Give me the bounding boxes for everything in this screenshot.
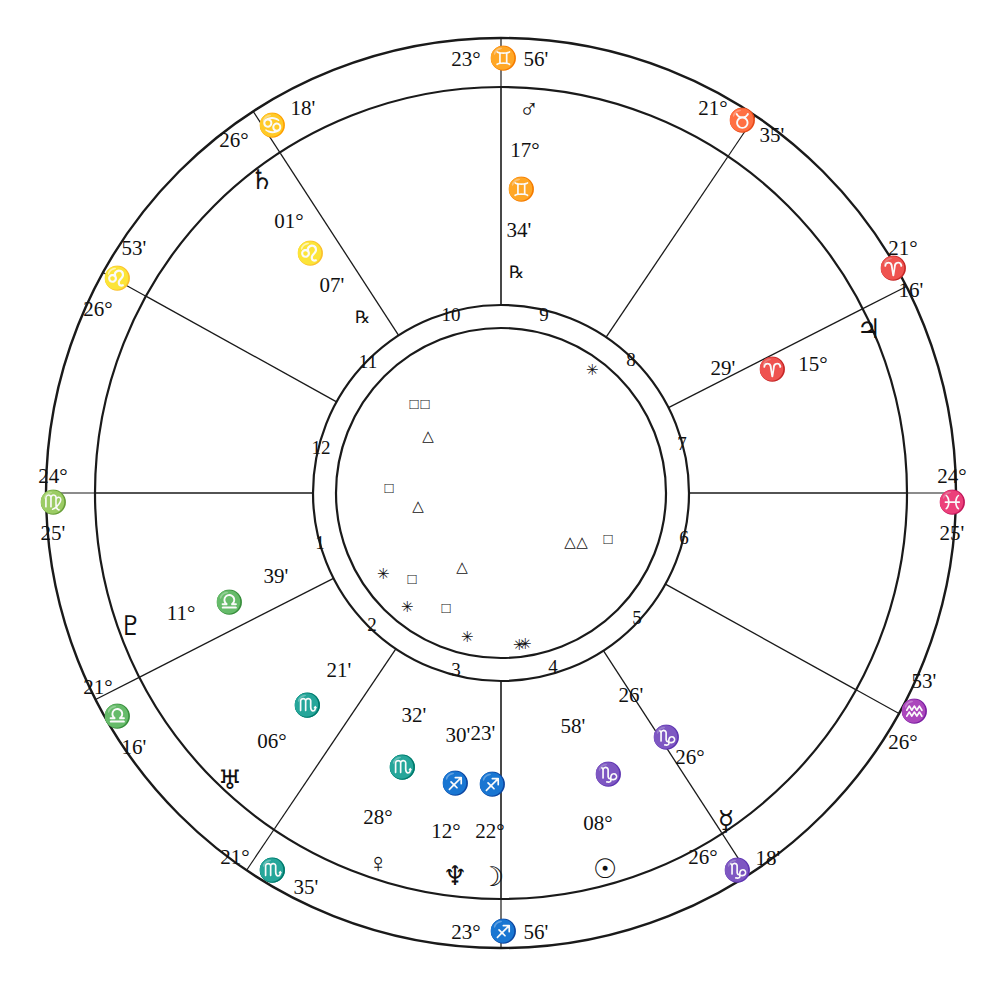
cusp-degree-c12: 26°: [83, 297, 112, 321]
planet-degree-mars: 17°: [510, 138, 539, 162]
aspect-marker-trine-3: △: [422, 428, 434, 444]
planet-minute-moon: 23': [471, 721, 496, 745]
planet-sign-mercury: ♑: [652, 724, 681, 751]
cusp-line-house-9: [606, 157, 727, 337]
planet-glyph-pluto: ♇: [119, 611, 143, 641]
planet-glyph-jupiter: ♃: [857, 314, 881, 344]
house-number-2: 2: [367, 614, 377, 635]
planet-glyph-mercury: ☿: [718, 806, 735, 836]
cusp-tick-house-6: [855, 689, 899, 713]
cusp-degree-c6: 26°: [888, 730, 917, 754]
cusp-minute-c6: 53': [912, 669, 937, 693]
aspect-glyph-group: ✳□□△□△△✳□✳□✳✳✳△△□: [377, 362, 613, 653]
planet-retrograde-saturn: ℞: [355, 308, 370, 327]
planet-glyph-mars: ♂: [519, 94, 539, 124]
cusp-minute-c5: 18': [756, 846, 781, 870]
cusp-minute-dsc: 25': [940, 521, 965, 545]
planet-glyph-uranus: ♅: [218, 765, 242, 795]
planet-sign-sun: ♑: [594, 761, 623, 788]
house-number-1: 1: [315, 532, 325, 553]
cusp-degree-c5: 26°: [688, 845, 717, 869]
aspect-marker-square-2: □: [420, 396, 429, 412]
planet-degree-uranus: 06°: [257, 729, 286, 753]
planet-sign-neptune: ♐: [441, 770, 470, 797]
aspect-marker-square-8: □: [407, 571, 416, 587]
planet-sign-saturn: ♌: [296, 240, 325, 267]
house-number-12: 12: [312, 437, 331, 458]
cusp-minute-asc: 25': [41, 521, 66, 545]
planet-sign-mars: ♊: [507, 176, 536, 203]
house-number-3: 3: [451, 659, 461, 680]
cusp-minute-c9: 35': [760, 123, 785, 147]
planet-sign-venus: ♏: [388, 754, 417, 781]
cusp-minute-c8: 16': [899, 278, 924, 302]
astrology-chart: 24°♍25'24°♓25'23°♊56'23°♐56'26°♋18'26°♌5…: [0, 0, 1004, 987]
aspect-marker-trine-14: △: [564, 534, 576, 550]
planet-minute-saturn: 07': [320, 273, 345, 297]
house-number-8: 8: [626, 349, 636, 370]
planet-degree-neptune: 12°: [431, 819, 460, 843]
planet-degree-venus: 28°: [363, 805, 392, 829]
aspect-marker-sextile-0: ✳: [586, 362, 599, 378]
cusp-minute-c2: 16': [122, 735, 147, 759]
cusp-degree-dsc: 24°: [937, 464, 966, 488]
planet-degree-jupiter: 15°: [798, 352, 827, 376]
planet-degree-pluto: 11°: [167, 601, 196, 625]
cusp-degree-c11: 26°: [219, 128, 248, 152]
aspect-marker-trine-6: △: [456, 559, 468, 575]
house-number-4: 4: [548, 656, 558, 677]
planet-glyph-sun: ☉: [593, 854, 617, 884]
house-number-10: 10: [442, 304, 461, 325]
aspect-marker-sextile-11: ✳: [461, 629, 474, 645]
planet-retrograde-mars: ℞: [509, 263, 524, 282]
cusp-degree-ic: 23°: [451, 920, 480, 944]
house-number-9: 9: [539, 304, 549, 325]
aspect-marker-square-10: □: [441, 600, 450, 616]
cusp-sign-asc: ♍: [39, 489, 68, 516]
cusp-degree-c2: 21°: [83, 675, 112, 699]
aspect-marker-square-4: □: [384, 480, 393, 496]
house-number-5: 5: [632, 607, 642, 628]
planet-minute-sun: 58': [561, 714, 586, 738]
cusp-minute-c12: 53': [122, 236, 147, 260]
cusp-minute-c3: 35': [294, 875, 319, 899]
planet-glyph-neptune: ♆: [443, 861, 467, 891]
aspect-marker-trine-15: △: [576, 534, 588, 550]
cusp-minute-mc: 56': [524, 47, 549, 71]
cusp-sign-c3: ♏: [258, 857, 287, 884]
cusp-sign-c12: ♌: [103, 265, 132, 292]
planet-minute-uranus: 21': [327, 658, 352, 682]
cusp-minute-c11: 18': [291, 96, 316, 120]
planet-glyph-moon: ☽: [480, 862, 504, 892]
planet-minute-mercury: 26': [619, 683, 644, 707]
planet-glyph-venus: ♀: [368, 848, 388, 878]
cusp-sign-dsc: ♓: [938, 489, 967, 516]
cusp-sign-c11: ♋: [258, 112, 287, 139]
cusp-line-house-6: [665, 584, 855, 689]
house-number-group: 123456789101112: [312, 304, 689, 680]
chart-wheel-svg: 24°♍25'24°♓25'23°♊56'23°♐56'26°♋18'26°♌5…: [0, 0, 1004, 987]
planet-minute-mars: 34': [507, 218, 532, 242]
aspect-marker-square-16: □: [603, 531, 612, 547]
house-number-11: 11: [359, 351, 377, 372]
cusp-line-house-12: [147, 297, 337, 402]
planet-degree-sun: 08°: [583, 811, 612, 835]
cusp-sign-c6: ♒: [900, 698, 929, 725]
planet-degree-moon: 22°: [475, 819, 504, 843]
cusp-minute-ic: 56': [524, 920, 549, 944]
planet-glyph-saturn: ♄: [250, 165, 274, 195]
planet-sign-uranus: ♏: [293, 692, 322, 719]
cusp-degree-c3: 21°: [220, 845, 249, 869]
cusp-sign-ic: ♐: [489, 918, 518, 945]
aspect-marker-sextile-9: ✳: [401, 599, 414, 615]
aspect-marker-sextile-13: ✳: [519, 636, 532, 652]
cusp-sign-mc: ♊: [489, 45, 518, 72]
aspect-marker-square-1: □: [409, 396, 418, 412]
cusp-degree-c9: 21°: [698, 96, 727, 120]
cusp-sign-c2: ♎: [103, 703, 132, 730]
planet-minute-neptune: 30': [446, 723, 471, 747]
cusp-sign-c9: ♉: [728, 107, 757, 134]
cusp-degree-asc: 24°: [38, 464, 67, 488]
planet-sign-jupiter: ♈: [758, 356, 787, 383]
planet-sign-pluto: ♎: [215, 589, 244, 616]
